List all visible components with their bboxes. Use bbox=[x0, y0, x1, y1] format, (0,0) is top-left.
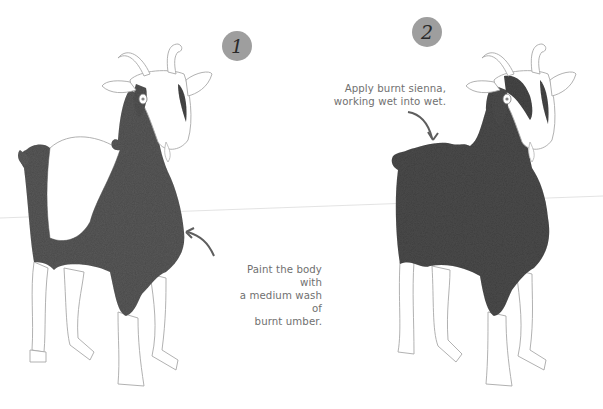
leg-back-left bbox=[32, 262, 48, 352]
ear-right bbox=[550, 72, 576, 96]
caption-line: Paint the body with bbox=[232, 263, 322, 289]
caption-step-2: Apply burnt sienna, working wet into wet… bbox=[326, 82, 446, 108]
caption-line: a medium wash of bbox=[232, 289, 322, 315]
horn-left bbox=[482, 53, 514, 76]
horn-right bbox=[531, 44, 545, 74]
caption-line: burnt umber. bbox=[232, 315, 322, 328]
caption-step-1: Paint the body with a medium wash of bur… bbox=[232, 263, 322, 328]
leg-front-left bbox=[118, 312, 144, 386]
leg-back-right bbox=[64, 268, 94, 360]
leg-front-right bbox=[150, 274, 178, 370]
horn-left bbox=[118, 53, 150, 76]
illustration-page: 1 2 Paint the body with a medium wash of… bbox=[0, 0, 603, 409]
leg-back-right bbox=[432, 266, 462, 362]
goat-illustrations bbox=[0, 0, 603, 409]
ear-right bbox=[186, 72, 212, 96]
leg-front-right bbox=[516, 270, 546, 370]
caption-line: working wet into wet. bbox=[326, 95, 446, 108]
step-badge-1: 1 bbox=[222, 31, 252, 61]
horn-right bbox=[167, 44, 181, 74]
ear-left bbox=[102, 81, 136, 93]
leg-back-left bbox=[398, 262, 414, 354]
leg-front-left bbox=[486, 312, 512, 386]
step-number: 2 bbox=[421, 23, 433, 42]
step-number: 1 bbox=[231, 37, 243, 56]
caption-line: Apply burnt sienna, bbox=[326, 82, 446, 95]
arrow-step-1 bbox=[188, 232, 214, 256]
step-badge-2: 2 bbox=[412, 17, 442, 47]
ear-left bbox=[466, 81, 500, 93]
goat-step-1 bbox=[18, 44, 214, 386]
